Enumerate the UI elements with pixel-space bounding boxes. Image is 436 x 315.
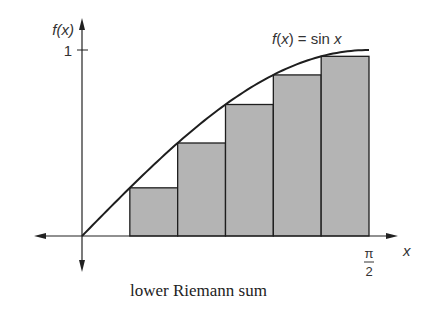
x-tick-label-numerator: π: [365, 246, 374, 261]
y-axis-up-arrow-icon: [79, 18, 85, 30]
plot-area: 1 f(x) x π 2 f(x) = sin x lower Riemann …: [0, 0, 436, 315]
x-axis-label: x: [402, 242, 411, 259]
x-axis-right-arrow-icon: [386, 233, 398, 239]
riemann-bar-3: [226, 104, 274, 236]
y-axis-down-arrow-icon: [79, 260, 85, 272]
riemann-bar-1: [130, 188, 178, 236]
riemann-bar-4: [273, 75, 321, 236]
figure-caption: lower Riemann sum: [130, 281, 267, 300]
x-axis-left-arrow-icon: [34, 233, 46, 239]
riemann-bar-5: [321, 56, 369, 236]
riemann-sum-figure: 1 f(x) x π 2 f(x) = sin x lower Riemann …: [0, 0, 436, 315]
y-axis-label: f(x): [52, 21, 74, 38]
bars-group: [130, 56, 369, 236]
x-tick-label-denominator: 2: [365, 264, 372, 279]
y-tick-label-1: 1: [64, 42, 72, 59]
riemann-bar-2: [178, 143, 226, 236]
function-label: f(x) = sin x: [272, 30, 342, 47]
